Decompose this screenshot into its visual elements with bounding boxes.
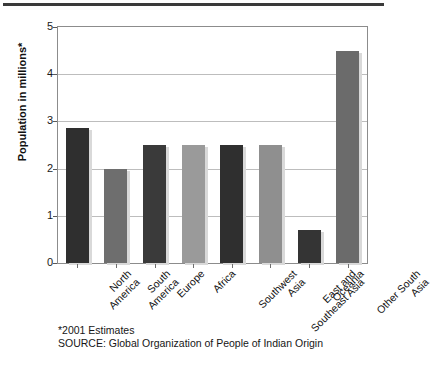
- gridline: [58, 74, 367, 75]
- y-axis-tick-label: 4: [31, 68, 53, 79]
- bar: [104, 169, 127, 263]
- footnote-source: SOURCE: Global Organization of People of…: [58, 337, 323, 350]
- x-axis-label: SouthwestAsia: [256, 268, 307, 319]
- bar: [336, 51, 359, 263]
- x-axis-tick-mark: [309, 264, 310, 268]
- bar: [259, 145, 282, 263]
- x-axis-label: NorthAmerica: [99, 268, 143, 312]
- y-axis-tick-label: 3: [31, 115, 53, 126]
- y-axis-tick-label: 1: [31, 210, 53, 221]
- y-axis-tick-mark: [53, 27, 57, 28]
- y-axis-tick-mark: [53, 121, 57, 122]
- y-axis-tick-label: 2: [31, 163, 53, 174]
- x-axis-tick-mark: [193, 264, 194, 268]
- y-axis-tick-label: 5: [31, 21, 53, 32]
- x-axis-label: Other SouthAsia: [374, 268, 431, 325]
- y-axis-tick-mark: [53, 169, 57, 170]
- bar: [298, 230, 321, 263]
- y-axis-tick-label: 0: [31, 257, 53, 268]
- x-axis-tick-mark: [77, 264, 78, 268]
- plot-area: [57, 26, 368, 264]
- x-axis-tick-mark: [116, 264, 117, 268]
- x-axis-tick-mark: [232, 264, 233, 268]
- bar: [143, 145, 166, 263]
- y-axis-tick-mark: [53, 263, 57, 264]
- y-axis-tick-mark: [53, 74, 57, 75]
- bar: [66, 128, 89, 263]
- x-axis-tick-mark: [270, 264, 271, 268]
- footnote-estimates: *2001 Estimates: [58, 324, 323, 337]
- bar: [182, 145, 205, 263]
- footnotes: *2001 Estimates SOURCE: Global Organizat…: [58, 324, 323, 351]
- x-axis-tick-mark: [155, 264, 156, 268]
- x-axis-label-line: Africa: [211, 268, 238, 295]
- header-rule: [3, 3, 384, 6]
- x-axis-label: Africa: [211, 268, 238, 295]
- gridline: [58, 121, 367, 122]
- y-axis-title: Population in millions*: [16, 12, 28, 192]
- y-axis-tick-mark: [53, 216, 57, 217]
- bar: [220, 145, 243, 263]
